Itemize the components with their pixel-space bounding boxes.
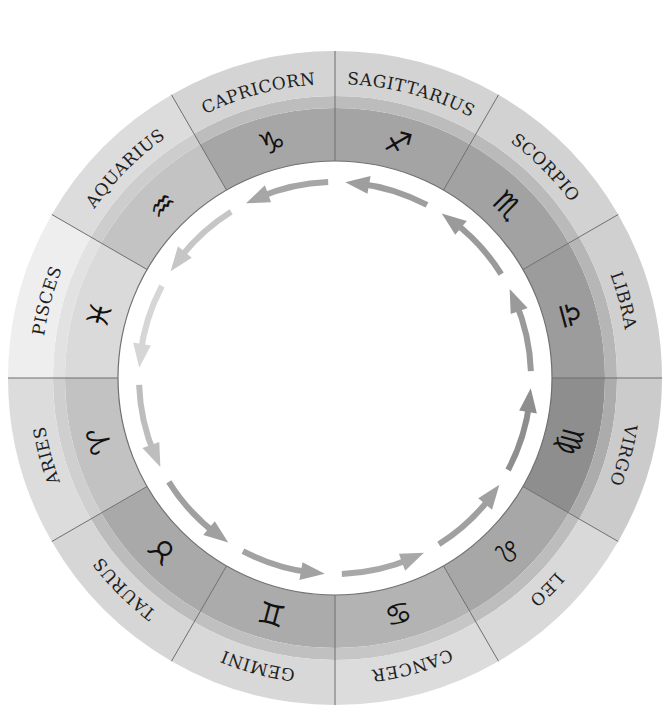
symbols-layer: ♐︎♏︎♎︎♍︎♌︎♋︎♊︎♉︎♈︎♓︎♒︎♑︎ [79, 122, 591, 634]
inner-circle-edge [118, 161, 552, 595]
cycle-arrows [133, 176, 537, 580]
zodiac-wheel: SAGITTARIUSSCORPIOLIBRAVIRGOLEOCANCERGEM… [0, 0, 668, 717]
arrow-head-icon [142, 442, 160, 467]
arrow-head-icon [510, 289, 528, 314]
arrow-head-icon [399, 553, 424, 571]
arrow-head-icon [345, 176, 370, 194]
arrow-head-icon [299, 562, 324, 580]
arrow-head-icon [519, 388, 537, 413]
arrow-head-icon [246, 185, 271, 203]
arrow-head-icon [133, 342, 151, 367]
